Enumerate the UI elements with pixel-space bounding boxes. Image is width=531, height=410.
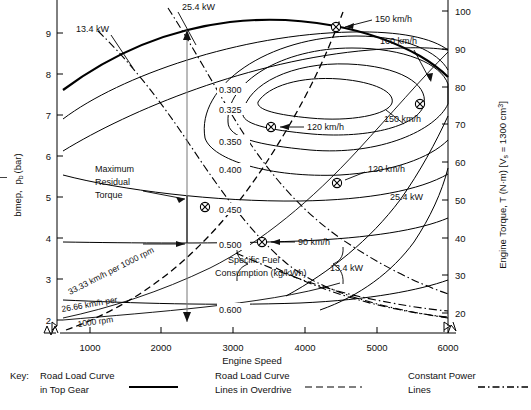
x-tick-label-5000: 5000 xyxy=(366,342,387,353)
y2-tick-label-20: 20 xyxy=(455,308,466,319)
contour-label-0325: 0.325 xyxy=(219,105,242,115)
y-tick-label-2: 2 xyxy=(46,315,51,326)
x-tick-label-6000: 6000 xyxy=(437,342,458,353)
x-tick-label-1000: 1000 xyxy=(79,342,100,353)
y2-tick-label-70: 70 xyxy=(455,119,466,130)
y2-axis-title-a: Engine Torque, T (N·m) [V xyxy=(497,158,508,269)
contour-label-0500: 0.500 xyxy=(219,240,242,250)
label-25-4kw-right: 25.4 kW xyxy=(390,192,424,202)
y-tick-label-5: 5 xyxy=(46,192,51,203)
y-tick-label-7: 7 xyxy=(46,110,51,121)
marker-150kmh-top xyxy=(331,22,340,31)
label-120kmh-right: 120 km/h xyxy=(368,164,405,174)
y2-tick-label-50: 50 xyxy=(455,195,466,206)
y2-tick-label-30: 30 xyxy=(455,270,466,281)
chart-svg: 1000 2000 3000 4000 5000 6000 Engine Spe… xyxy=(0,0,531,410)
contour-label-0350: 0.350 xyxy=(219,137,242,147)
label-150kmh-top: 150 km/h xyxy=(375,14,412,24)
x-tick-label-3000: 3000 xyxy=(222,342,243,353)
svg-text:bmep, pb(bar): bmep, pb(bar) xyxy=(12,153,24,216)
label-sfc-1: Specific Fuel xyxy=(228,255,280,265)
y2-axis-title-c: ] xyxy=(497,101,508,104)
y-tick-label-9: 9 xyxy=(46,28,51,39)
label-120kmh-left: 120 km/h xyxy=(307,122,344,132)
key-item2-line2: Lines in Overdrive xyxy=(215,384,292,395)
y2-axis-title: Engine Torque, T (N·m) [Vs = 1300 cm3] xyxy=(497,101,509,269)
marker-90kmh-left xyxy=(200,202,209,211)
label-13-4kw-right: 13.4 kW xyxy=(330,263,364,273)
y-tick-label-6: 6 xyxy=(46,151,51,162)
contour-label-0400: 0.400 xyxy=(219,165,242,175)
svg-text:Engine Torque, T (N·m) [Vs = 1: Engine Torque, T (N·m) [Vs = 1300 cm3] xyxy=(497,101,509,269)
key-item1-line1: Road Load Curve xyxy=(40,370,114,381)
key-item2-line1: Road Load Curve xyxy=(215,370,289,381)
label-max-residual-1: Maximum xyxy=(95,164,134,174)
y2-axis-title-b: = 1300 cm xyxy=(497,108,508,155)
contour-label-0450: 0.450 xyxy=(219,205,242,215)
y-axis-title-sub: b xyxy=(17,175,24,179)
contour-label-0300: 0.300 xyxy=(219,85,242,95)
marker-160kmh xyxy=(415,99,424,108)
marker-120kmh-left xyxy=(266,122,275,131)
label-90kmh: 90 km/h xyxy=(298,237,330,247)
label-sfc-2: Consumption (kg/kWh) xyxy=(215,268,307,278)
y-tick-label-3: 3 xyxy=(46,274,51,285)
marker-120kmh-right xyxy=(332,178,341,187)
y2-tick-label-80: 80 xyxy=(455,82,466,93)
engine-performance-chart: 1000 2000 3000 4000 5000 6000 Engine Spe… xyxy=(0,0,531,410)
key-item3-line1: Constant Power xyxy=(408,370,476,381)
y-tick-label-8: 8 xyxy=(46,69,51,80)
y-axis-title-main: bmep, xyxy=(12,190,23,216)
x-tick-label-2000: 2000 xyxy=(150,342,171,353)
label-25-4kw-top: 25.4 kW xyxy=(182,2,216,12)
key-item3-line2: Lines xyxy=(408,384,431,395)
marker-90kmh-right xyxy=(257,237,266,246)
label-150kmh-right: 150 km/h xyxy=(384,114,421,124)
label-max-residual-3: Torque xyxy=(95,190,123,200)
x-tick-label-4000: 4000 xyxy=(294,342,315,353)
y-axis-title-unit: (bar) xyxy=(12,153,23,173)
label-max-residual-2: Residual xyxy=(95,177,130,187)
x-axis-title: Engine Speed xyxy=(222,355,282,366)
y-tick-label-4: 4 xyxy=(46,233,51,244)
y2-tick-label-100: 100 xyxy=(455,6,471,17)
key-item1-line2: in Top Gear xyxy=(40,384,89,395)
y2-tick-label-40: 40 xyxy=(455,233,466,244)
y2-tick-label-90: 90 xyxy=(455,44,466,55)
label-13-4kw-top: 13.4 kW xyxy=(76,24,110,34)
contour-label-0600: 0.600 xyxy=(219,305,242,315)
label-160kmh: 160 km/h xyxy=(380,36,417,46)
key-title: Key: xyxy=(10,370,29,381)
y2-tick-label-60: 60 xyxy=(455,157,466,168)
